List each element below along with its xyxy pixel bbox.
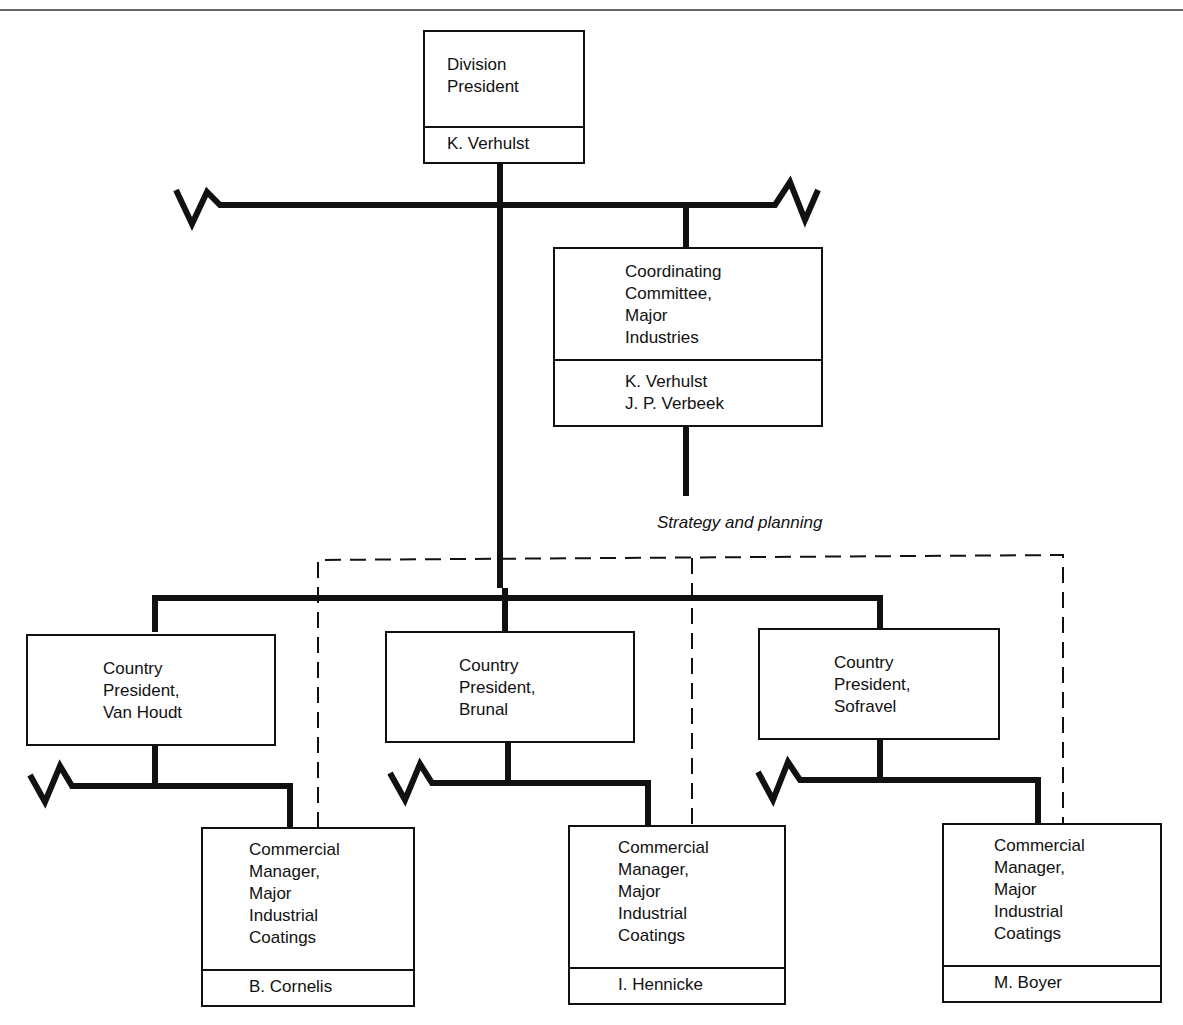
coordinating-committee-names: K. Verhulst J. P. Verbeek [555,359,821,425]
country-president-box: Country President, Van Houdt [26,634,276,746]
country-president-box: Country President, Sofravel [758,628,1000,740]
commercial-manager-box: Commercial Manager, Major Industrial Coa… [942,823,1162,1003]
commercial-manager-box: Commercial Manager, Major Industrial Coa… [201,827,415,1007]
division-president-title: Division President [425,32,583,126]
strategy-planning-caption: Strategy and planning [657,513,822,533]
division-president-name: K. Verhulst [425,126,583,162]
commercial-manager-box: Commercial Manager, Major Industrial Coa… [568,825,786,1005]
coordinating-committee-box: Coordinating Committee, Major Industries… [553,247,823,427]
coordinating-committee-title: Coordinating Committee, Major Industries [555,249,821,359]
country-president-box: Country President, Brunal [385,631,635,743]
division-president-box: Division President K. Verhulst [423,30,585,164]
